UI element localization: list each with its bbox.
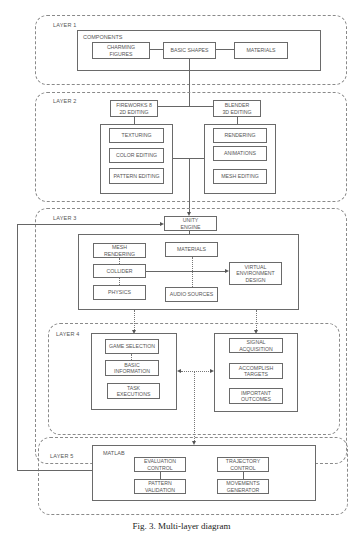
- layer-2-label: LAYER 2: [53, 98, 77, 104]
- layer-2-container: [35, 92, 347, 202]
- unity-engine-box: UNITY ENGINE: [164, 216, 217, 231]
- layer-5-label: LAYER 5: [50, 453, 74, 459]
- matlab-frame: MATLAB: [92, 445, 316, 501]
- evaluation-control-box: EVALUATION CONTROL: [134, 457, 186, 472]
- collider-box: COLLIDER: [93, 264, 146, 278]
- basic-shapes-box: BASIC SHAPES: [163, 42, 216, 59]
- components-label: COMPONENTS: [83, 34, 122, 40]
- trajectory-control-box: TRAJECTORY CONTROL: [217, 457, 269, 472]
- matlab-label: MATLAB: [103, 450, 125, 456]
- blender-3d-editing-box: BLENDER 3D EDITING: [213, 100, 261, 117]
- figure-caption: Fig. 3. Multi-layer diagram: [0, 521, 363, 531]
- audio-sources-box: AUDIO SOURCES: [165, 287, 218, 302]
- charming-figures-box: CHARMING FIGURES: [92, 42, 150, 59]
- movements-generator-box: MOVEMENTS GENERATOR: [217, 479, 269, 494]
- signal-acquisition-box: SIGNAL ACQUISITION: [229, 338, 283, 353]
- basic-information-box: BASIC INFORMATION: [105, 360, 159, 376]
- accomplish-targets-box: ACCOMPLISH TARGETS: [229, 363, 283, 379]
- materials-box: MATERIALS: [234, 42, 288, 59]
- mesh-rendering-box: MESH RENDERING: [93, 243, 146, 258]
- layer-1-label: LAYER 1: [53, 22, 77, 28]
- layer-4-label: LAYER 4: [56, 331, 80, 337]
- game-selection-box: GAME SELECTION: [105, 339, 159, 354]
- pattern-validation-box: PATTERN VALIDATION: [134, 479, 186, 494]
- pattern-editing-box: PATTERN EDITING: [109, 168, 164, 184]
- texturing-box: TEXTURING: [109, 128, 164, 143]
- layer-3-label: LAYER 3: [53, 215, 77, 221]
- task-executions-box: TASK EXECUTIONS: [107, 383, 160, 399]
- color-editing-box: COLOR EDITING: [109, 148, 164, 163]
- unity-materials-box: MATERIALS: [165, 242, 218, 257]
- animations-box: ANIMATIONS: [213, 146, 267, 161]
- virtual-environment-design-box: VIRTUAL ENVIRONMENT DESIGN: [229, 262, 282, 285]
- physics-box: PHYSICS: [93, 285, 146, 300]
- fireworks-2d-editing-box: FIREWORKS 8 2D EDITING: [110, 100, 158, 117]
- rendering-box: RENDERING: [213, 128, 267, 143]
- mesh-editing-box: MESH EDITING: [213, 169, 267, 184]
- important-outcomes-box: IMPORTANT OUTCOMES: [229, 388, 283, 404]
